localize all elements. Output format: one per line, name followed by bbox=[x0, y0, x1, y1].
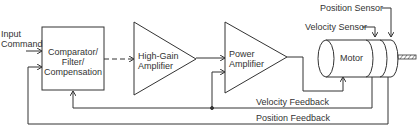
high-gain-amplifier-label: High-Gain Amplifier bbox=[138, 51, 179, 71]
comparator-label: Comparator/ Filter/ Compensation bbox=[42, 47, 104, 77]
velocity-sensor-label: Velocity Sensor bbox=[305, 22, 367, 32]
position-sensor-label: Position Sensor bbox=[320, 3, 383, 13]
position-sensor-callout bbox=[382, 8, 391, 37]
velocity-to-power-amp-line bbox=[212, 72, 225, 108]
junction-dot bbox=[211, 107, 214, 110]
motor-label: Motor bbox=[340, 53, 363, 63]
input-command-label: Input Command bbox=[1, 29, 43, 49]
position-sensor-band bbox=[380, 40, 387, 77]
power-amplifier-label: Power Amplifier bbox=[229, 49, 264, 69]
velocity-sensor-band bbox=[366, 40, 373, 77]
velocity-feedback-label: Velocity Feedback bbox=[256, 97, 329, 107]
motor-end bbox=[318, 40, 334, 77]
position-feedback-label: Position Feedback bbox=[256, 113, 330, 123]
power-to-motor-line bbox=[287, 57, 343, 91]
